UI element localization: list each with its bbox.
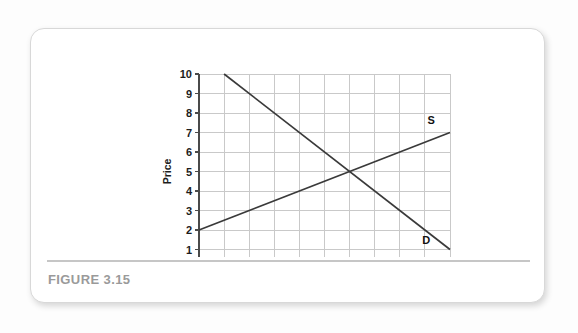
- y-tick-label: 4: [186, 185, 193, 197]
- chart-area: 01234567891002004006008001000SDQuantity …: [31, 29, 546, 257]
- figure-card: 01234567891002004006008001000SDQuantity …: [30, 28, 545, 303]
- y-tick-label: 7: [186, 127, 192, 139]
- series-label-S: S: [428, 114, 435, 126]
- y-tick-label: 5: [186, 166, 192, 178]
- y-axis-title: Price: [161, 158, 173, 184]
- series-label-D: D: [422, 234, 430, 246]
- y-tick-label: 9: [186, 88, 192, 100]
- y-tick-label: 10: [180, 68, 192, 80]
- series-line-D: [224, 74, 450, 250]
- caption-divider: [47, 260, 530, 262]
- figure-caption: FIGURE 3.15: [48, 272, 130, 287]
- y-tick-label: 2: [186, 224, 192, 236]
- y-tick-label: 1: [186, 244, 192, 256]
- y-tick-label: 8: [186, 107, 192, 119]
- y-tick-label: 6: [186, 146, 192, 158]
- y-tick-label: 3: [186, 205, 192, 217]
- supply-demand-chart: 01234567891002004006008001000SDQuantity …: [139, 31, 469, 257]
